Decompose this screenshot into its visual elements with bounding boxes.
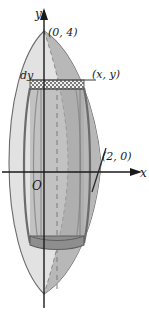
label-x-intercept: (2, 0) [102,150,132,163]
y-axis-label: y [34,7,42,21]
shell-body-fill [30,88,84,243]
solid-of-revolution-figure: y x (0, 4) (x, y) (2, 0) dy O [0,0,149,318]
label-thickness-dy: dy [20,69,34,82]
label-origin: O [32,179,42,193]
x-axis-label: x [140,166,147,180]
shell-thickness-band-dy [30,80,84,89]
label-top-vertex: (0, 4) [48,26,78,39]
figure-canvas: y x (0, 4) (x, y) (2, 0) dy O [0,0,149,318]
shell-base-band [30,236,84,250]
label-shell-point: (x, y) [92,68,120,81]
